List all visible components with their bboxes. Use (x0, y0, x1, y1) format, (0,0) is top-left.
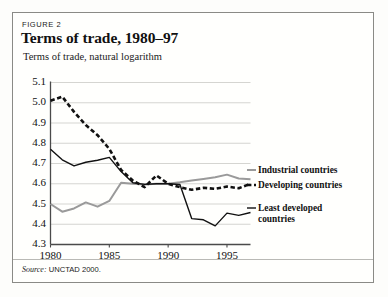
y-tick-label: 4.3 (20, 237, 46, 249)
y-tick-label: 4.5 (20, 197, 46, 209)
y-tick-label: 4.8 (20, 136, 46, 148)
legend-label-developing: Developing countries (258, 180, 342, 191)
figure-container: FIGURE 2 Terms of trade, 1980–97 Terms o… (0, 0, 388, 297)
y-tick-label: 4.7 (20, 156, 46, 168)
series-line-industrial-countries (51, 175, 251, 212)
source-note: Source: UNCTAD 2000. (22, 265, 101, 274)
y-tick-label: 4.6 (20, 176, 46, 188)
legend-label-industrial: Industrial countries (258, 165, 337, 176)
y-tick-label: 4.4 (20, 217, 46, 229)
legend-least-developed-line1: Least developed (258, 203, 322, 213)
legend-least-developed-line2: countries (258, 214, 295, 224)
legend-label-least-developed: Least developedcountries (258, 203, 322, 225)
y-tick-label: 5.0 (20, 95, 46, 107)
y-tick-label: 4.9 (20, 116, 46, 128)
gridlines-group (51, 83, 251, 225)
source-prefix: Source: (22, 265, 47, 274)
y-tick-label: 5.1 (20, 75, 46, 87)
legend-marker-group (247, 170, 256, 208)
source-text: UNCTAD 2000. (49, 265, 101, 274)
source-divider (13, 259, 373, 260)
data-series-group (51, 97, 251, 226)
